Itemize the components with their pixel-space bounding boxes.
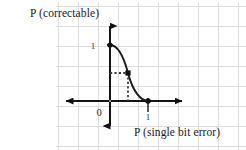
x-tick-label-one: 1 — [146, 112, 151, 122]
y-intercept-point — [107, 42, 112, 47]
y-tick-label-one: 1 — [91, 41, 96, 51]
plot-svg: P (correctable) P (single bit error) 1 1… — [0, 0, 246, 150]
figure-container: P (correctable) P (single bit error) 1 1… — [0, 0, 246, 150]
origin-label: 0 — [96, 107, 101, 118]
y-axis-label: P (correctable) — [30, 7, 99, 20]
midpoint-point — [125, 70, 130, 75]
x-intercept-point — [145, 98, 151, 104]
x-axis-label: P (single bit error) — [134, 126, 220, 139]
